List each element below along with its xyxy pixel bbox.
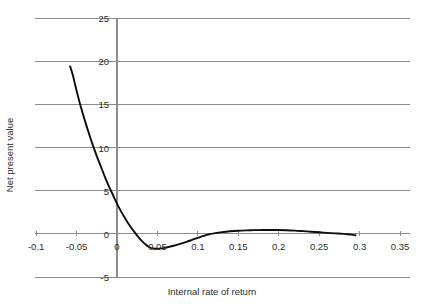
x-axis-title: Internal rate of return [168, 286, 257, 297]
gridlines-group [35, 18, 410, 277]
chart-figure: -50510152025 -0.1-0.0500.050.10.150.20.2… [0, 0, 424, 306]
series-line-0 [70, 66, 355, 248]
plot-canvas [0, 0, 424, 306]
y-axis-title: Net present value [4, 118, 15, 192]
data-curve-group [70, 66, 355, 248]
